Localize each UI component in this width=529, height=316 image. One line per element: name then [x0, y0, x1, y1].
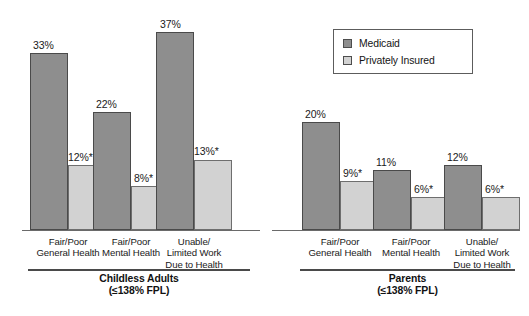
legend: Medicaid Privately Insured [333, 29, 473, 74]
bar-value-parents-private-general-health: 9%* [343, 168, 362, 179]
bar-value-childless-medicaid-limited-work: 37% [160, 19, 181, 30]
group-rule-childless-adults [28, 269, 250, 271]
bar-value-childless-private-mental-health: 8%* [134, 173, 153, 184]
bar-childless-medicaid-mental-health[interactable] [93, 112, 131, 230]
bar-value-childless-medicaid-mental-health: 22% [96, 99, 117, 110]
bar-parents-medicaid-general-health[interactable] [302, 122, 340, 230]
legend-item-privately-insured[interactable]: Privately Insured [343, 52, 472, 69]
bar-childless-medicaid-limited-work[interactable] [156, 32, 194, 230]
axis-baseline-left-group [22, 230, 260, 231]
legend-label-privately-insured: Privately Insured [359, 55, 435, 67]
group-title-childless-adults: Childless Adults (≤138% FPL) [28, 273, 250, 298]
category-label-parents-limited-work: Unable/ Limited Work Due to Health [428, 236, 529, 270]
bar-value-parents-medicaid-limited-work: 12% [447, 152, 468, 163]
bar-parents-private-limited-work[interactable] [482, 197, 520, 230]
bar-childless-medicaid-general-health[interactable] [30, 53, 68, 230]
axis-baseline-right-group [272, 230, 520, 231]
bar-value-childless-private-limited-work: 13%* [194, 146, 219, 157]
bar-childless-private-limited-work[interactable] [194, 160, 232, 230]
legend-label-medicaid: Medicaid [359, 38, 400, 50]
bar-value-parents-medicaid-mental-health: 11% [376, 157, 396, 168]
bar-parents-medicaid-limited-work[interactable] [444, 165, 482, 230]
bar-value-parents-private-limited-work: 6%* [485, 184, 504, 195]
bar-value-parents-medicaid-general-health: 20% [305, 109, 326, 120]
bar-parents-medicaid-mental-health[interactable] [373, 170, 411, 230]
category-label-childless-limited-work: Unable/ Limited Work Due to Health [140, 236, 248, 270]
legend-swatch-medicaid-icon [343, 39, 352, 48]
bar-value-childless-private-general-health: 12%* [68, 152, 93, 163]
legend-item-medicaid[interactable]: Medicaid [343, 35, 472, 52]
grouped-bar-chart: 33% 12%* 22% 8%* 37% 13%* 20% 9%* 11% 6%… [0, 0, 529, 316]
group-title-parents: Parents (≤138% FPL) [300, 273, 515, 298]
bar-value-parents-private-mental-health: 6%* [414, 184, 433, 195]
group-rule-parents [300, 269, 515, 271]
bar-value-childless-medicaid-general-health: 33% [33, 40, 54, 51]
legend-swatch-privately-insured-icon [343, 56, 352, 65]
